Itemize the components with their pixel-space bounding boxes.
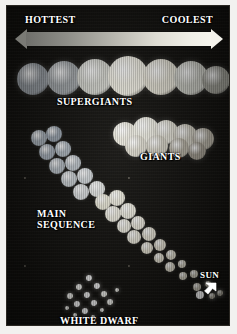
star-main-sequence	[178, 260, 186, 268]
star-supergiants	[108, 56, 148, 96]
label-sun: SUN	[200, 271, 219, 280]
star-white-dwarf	[82, 308, 88, 314]
star-main-sequence	[217, 290, 223, 296]
star-white-dwarf	[67, 293, 73, 299]
star-main-sequence	[154, 253, 164, 263]
star-white-dwarf	[84, 292, 90, 298]
arrow-head-right-icon	[211, 29, 223, 49]
label-coolest: COOLEST	[162, 15, 213, 26]
temperature-gradient-arrow	[15, 29, 223, 49]
star-main-sequence	[77, 168, 93, 184]
star-main-sequence	[49, 158, 65, 174]
star-main-sequence	[179, 272, 187, 280]
star-white-dwarf	[101, 291, 107, 297]
star-main-sequence	[65, 155, 81, 171]
label-main-sequence-line2: SEQUENCE	[37, 220, 95, 231]
star-main-sequence	[46, 126, 62, 142]
star-white-dwarf	[86, 275, 92, 281]
star-supergiants	[202, 66, 230, 94]
star-main-sequence	[73, 184, 89, 200]
star-white-dwarf	[94, 283, 100, 289]
label-hottest: HOTTEST	[25, 15, 76, 26]
star-main-sequence	[154, 239, 166, 251]
star-white-dwarf	[91, 300, 97, 306]
star-giants	[188, 142, 206, 160]
star-white-dwarf	[107, 299, 113, 305]
star-supergiants	[17, 63, 49, 95]
star-supergiants	[47, 61, 81, 95]
star-main-sequence	[142, 227, 156, 241]
sun-pointer-arrow-icon	[203, 282, 217, 296]
star-main-sequence	[193, 283, 201, 291]
star-main-sequence	[39, 144, 55, 160]
star-white-dwarf	[76, 284, 82, 290]
label-supergiants: SUPERGIANTS	[57, 97, 133, 108]
label-giants: GIANTS	[140, 152, 181, 163]
star-white-dwarf	[100, 308, 104, 312]
star-main-sequence	[61, 171, 77, 187]
label-main-sequence: MAIN SEQUENCE	[37, 209, 95, 230]
star-main-sequence	[55, 141, 71, 157]
star-main-sequence	[190, 270, 198, 278]
star-main-sequence	[131, 216, 145, 230]
star-main-sequence	[165, 262, 175, 272]
star-white-dwarf	[74, 301, 80, 307]
arrow-bar	[26, 32, 212, 46]
star-white-dwarf	[65, 306, 69, 310]
star-main-sequence	[166, 250, 176, 260]
label-main-sequence-line1: MAIN	[37, 209, 95, 220]
star-main-sequence	[141, 242, 153, 254]
star-main-sequence	[127, 230, 141, 244]
starfield-panel: HOTTEST COOLEST SUPERGIANTS GIANTS MAIN …	[6, 5, 230, 326]
hr-diagram-figure: HOTTEST COOLEST SUPERGIANTS GIANTS MAIN …	[0, 0, 237, 334]
label-white-dwarf: WHITE DWARF	[60, 316, 139, 326]
star-white-dwarf	[115, 288, 119, 292]
